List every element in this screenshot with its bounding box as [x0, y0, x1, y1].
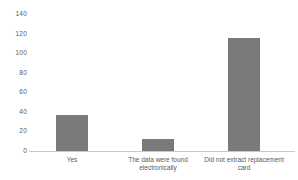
- y-tick-label: 140: [0, 10, 27, 18]
- y-tick-label: 80: [0, 69, 27, 77]
- x-category-label: Did not extract replacement card: [201, 156, 287, 172]
- bar-chart: 020406080100120140 YesThe data were foun…: [0, 0, 298, 180]
- y-tick-label: 100: [0, 49, 27, 57]
- x-category-label: Yes: [29, 156, 115, 164]
- x-axis-line: [29, 151, 295, 152]
- bar: [142, 139, 174, 151]
- x-category-label: The data were found electronically: [115, 156, 201, 172]
- y-tick-label: 60: [0, 88, 27, 96]
- y-tick-label: 120: [0, 30, 27, 38]
- bar: [228, 38, 260, 151]
- y-tick-label: 0: [0, 147, 27, 155]
- y-tick-label: 20: [0, 127, 27, 135]
- y-tick-label: 40: [0, 108, 27, 116]
- bar: [56, 115, 88, 151]
